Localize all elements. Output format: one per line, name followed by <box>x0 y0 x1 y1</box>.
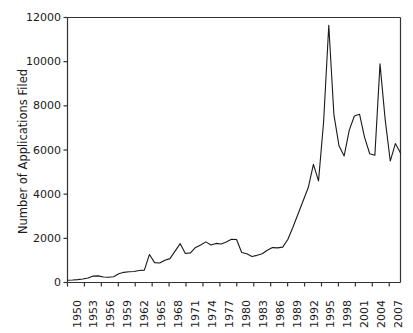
axis-spines <box>68 18 401 283</box>
data-line-applications-filed <box>68 25 401 280</box>
chart-figure: Number of Applications Filed 02000400060… <box>0 0 413 333</box>
plot-area <box>0 0 413 333</box>
